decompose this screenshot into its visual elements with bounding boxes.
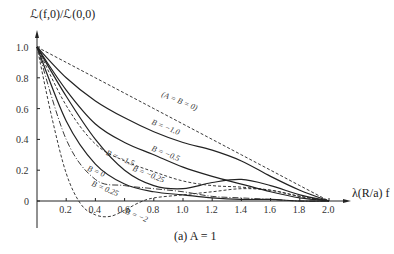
series-annotation: B = 0 [86,164,106,179]
series-annotation: B = −2 [124,207,149,224]
series-annotation: (A = B = 0) [160,90,199,113]
caption: (a) A = 1 [174,229,216,243]
x-axis-arrow-icon [343,199,351,203]
x-axis-label: λ(R/a) f [352,186,389,200]
series-line [37,47,329,201]
y-tick-label: 0.8 [16,73,29,84]
y-tick-label: 0.2 [16,165,29,176]
x-tick-label: 1.2 [205,204,218,215]
series-annotation: B = −0.25 [131,164,166,185]
y-tick-label: 1.0 [16,42,29,53]
series [37,47,329,217]
y-tick-label: 0 [24,196,29,207]
x-tick-label: 1.6 [264,204,277,215]
y-axis-arrow-icon [35,30,39,38]
x-tick-label: 0.4 [88,204,101,215]
x-tick-label: 1.0 [176,204,189,215]
chart: 0.20.40.60.81.01.21.41.61.82.000.20.40.6… [0,0,394,254]
series-annotation: B = −1.5 [105,148,136,167]
x-tick-label: 1.4 [234,204,247,215]
x-tick-label: 2.0 [322,204,335,215]
y-tick-label: 0.6 [16,104,29,115]
y-tick-label: 0.4 [16,134,29,145]
x-tick-label: 0.2 [59,204,71,215]
series-annotation: B = 0.25 [90,179,120,198]
x-tick-label: 1.8 [293,204,306,215]
x-tick-label: 0.8 [147,204,160,215]
y-axis-label: ℒ(f,0)/ℒ(0,0) [30,7,95,21]
